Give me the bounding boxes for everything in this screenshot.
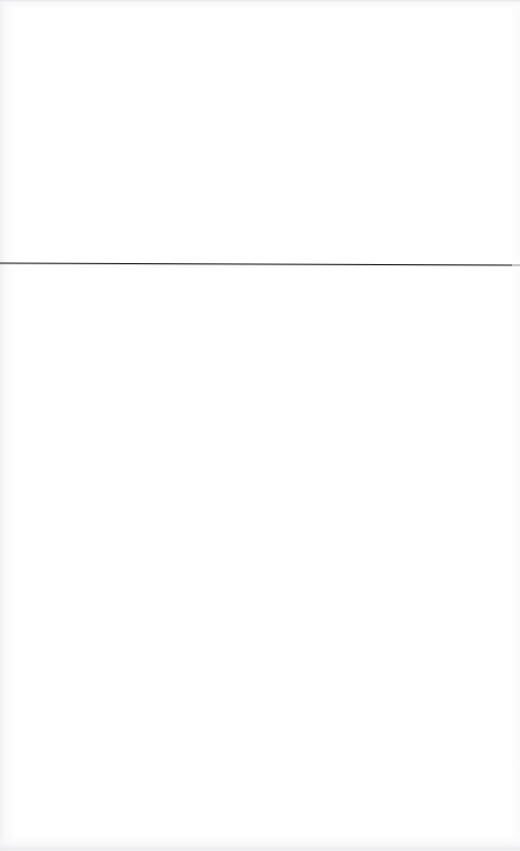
blank-region-lower [0, 272, 520, 835]
scanned-page [0, 0, 520, 851]
horizontal-rule [0, 254, 520, 272]
rule-core [0, 263, 520, 265]
horizontal-rule-graphic [0, 254, 520, 272]
rule-halo [0, 264, 520, 266]
bottom-edge-artifact [0, 835, 520, 851]
blank-region-upper [0, 0, 520, 254]
rule-right-fade [512, 261, 520, 268]
